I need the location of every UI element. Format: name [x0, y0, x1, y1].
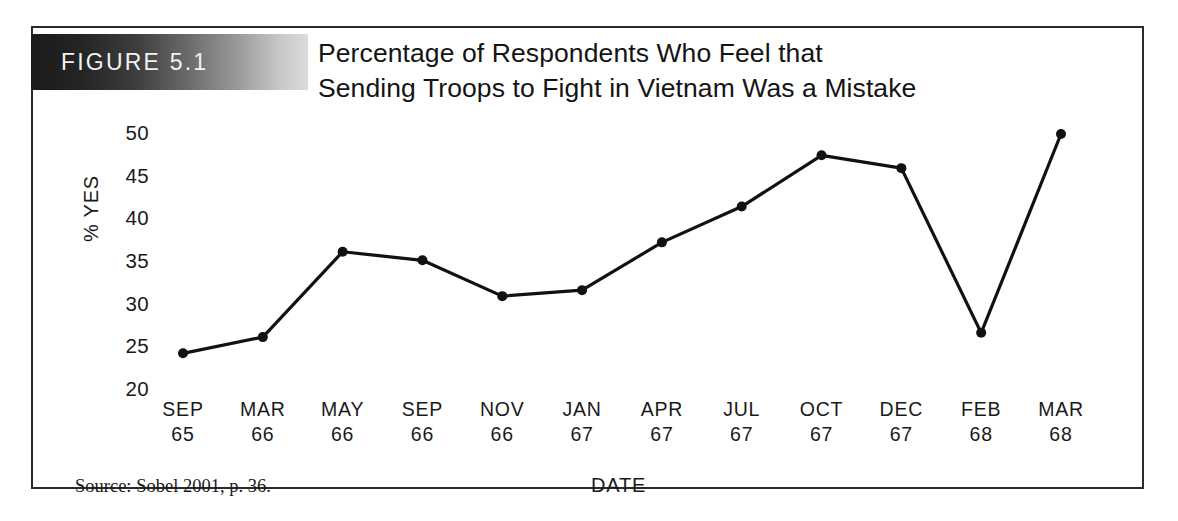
x-axis-tick-month: SEP	[378, 397, 466, 422]
data-point-marker	[896, 163, 906, 173]
data-point-marker	[817, 150, 827, 160]
x-axis-tick-label: JAN67	[538, 397, 626, 447]
data-point-marker	[657, 237, 667, 247]
x-axis-tick-label: MAR66	[219, 397, 307, 447]
x-axis-tick-year: 67	[538, 422, 626, 447]
x-axis-tick-month: DEC	[857, 397, 945, 422]
data-point-marker	[737, 202, 747, 212]
figure-root: FIGURE 5.1 Percentage of Respondents Who…	[0, 0, 1178, 521]
x-axis-tick-label: NOV66	[458, 397, 546, 447]
x-axis-tick-month: SEP	[139, 397, 227, 422]
data-point-marker	[1056, 129, 1066, 139]
x-axis-tick-month: JUL	[698, 397, 786, 422]
y-axis-tick-label: 30	[105, 292, 149, 316]
x-axis-tick-label: JUL67	[698, 397, 786, 447]
y-axis-tick-label: 45	[105, 164, 149, 188]
y-axis-tick-label: 50	[105, 121, 149, 145]
x-axis-tick-month: JAN	[538, 397, 626, 422]
y-axis-title: % YES	[80, 175, 103, 242]
x-axis-tick-label: FEB68	[937, 397, 1025, 447]
data-point-marker	[577, 285, 587, 295]
x-axis-tick-label: APR67	[618, 397, 706, 447]
y-axis-tick-label: 40	[105, 206, 149, 230]
data-line	[183, 134, 1061, 353]
figure-title-line-1: Percentage of Respondents Who Feel that	[318, 36, 1118, 71]
x-axis-tick-month: MAY	[299, 397, 387, 422]
x-axis-tick-label: MAR68	[1017, 397, 1105, 447]
x-axis-tick-year: 66	[299, 422, 387, 447]
x-axis-tick-month: APR	[618, 397, 706, 422]
figure-title: Percentage of Respondents Who Feel that …	[318, 36, 1118, 106]
x-axis-title: DATE	[591, 474, 646, 497]
data-point-marker	[417, 255, 427, 265]
figure-title-line-2: Sending Troops to Fight in Vietnam Was a…	[318, 71, 1118, 106]
x-axis-tick-year: 67	[778, 422, 866, 447]
figure-number-badge: FIGURE 5.1	[31, 34, 308, 90]
x-axis-tick-month: NOV	[458, 397, 546, 422]
data-point-marker	[178, 348, 188, 358]
figure-number-label: FIGURE 5.1	[31, 49, 208, 76]
x-axis-tick-year: 67	[857, 422, 945, 447]
x-axis-tick-label: DEC67	[857, 397, 945, 447]
x-axis-tick-label: MAY66	[299, 397, 387, 447]
data-point-marker	[976, 328, 986, 338]
data-point-marker	[497, 291, 507, 301]
x-axis-tick-year: 66	[378, 422, 466, 447]
x-axis-tick-year: 66	[219, 422, 307, 447]
y-axis-tick-label: 35	[105, 249, 149, 273]
x-axis-tick-year: 68	[937, 422, 1025, 447]
x-axis-tick-month: FEB	[937, 397, 1025, 422]
x-axis-tick-month: OCT	[778, 397, 866, 422]
x-axis-tick-year: 67	[698, 422, 786, 447]
x-axis-tick-year: 67	[618, 422, 706, 447]
x-axis-tick-month: MAR	[219, 397, 307, 422]
x-axis-tick-year: 68	[1017, 422, 1105, 447]
x-axis-tick-year: 66	[458, 422, 546, 447]
x-axis-tick-month: MAR	[1017, 397, 1105, 422]
x-axis-tick-year: 65	[139, 422, 227, 447]
y-axis-tick-label: 25	[105, 334, 149, 358]
x-axis-tick-label: SEP66	[378, 397, 466, 447]
x-axis-tick-label: SEP65	[139, 397, 227, 447]
data-point-marker	[258, 332, 268, 342]
source-note: Source: Sobel 2001, p. 36.	[75, 476, 271, 497]
data-point-marker	[338, 247, 348, 257]
x-axis-tick-label: OCT67	[778, 397, 866, 447]
